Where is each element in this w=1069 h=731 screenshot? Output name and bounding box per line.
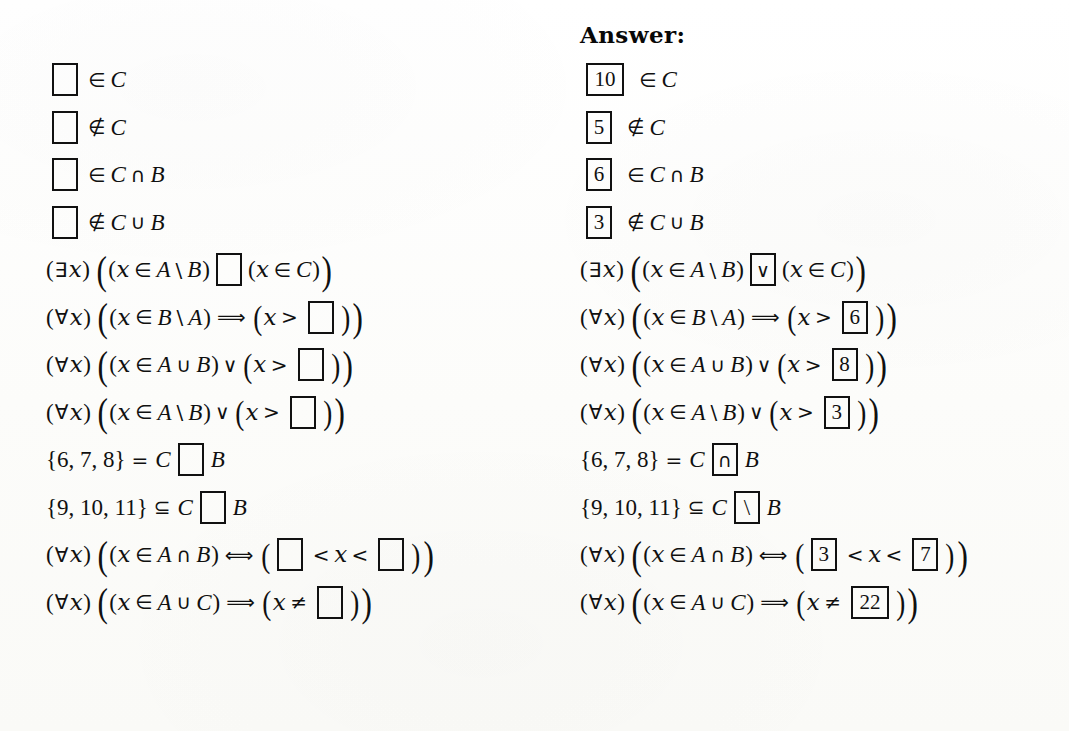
empty-answer-box[interactable] (317, 586, 343, 619)
filled-answer-box[interactable]: ∩ (712, 443, 738, 476)
var-x: x (117, 306, 131, 329)
answer-row-2: 5 ∉ C (580, 104, 1069, 152)
set-b-label: B (729, 353, 745, 376)
set-b-label: B (721, 401, 737, 424)
filled-answer-box[interactable]: 3 (824, 396, 850, 429)
equals-symbol: = (660, 450, 689, 470)
set-b-label: B (186, 258, 202, 281)
open-paren: ( (580, 543, 588, 566)
question-row-9: {6, 7, 8} = C B (46, 436, 546, 484)
close-paren: ) (203, 401, 211, 424)
var-x: x (69, 306, 83, 329)
greater-than-symbol: > (811, 307, 836, 327)
forall-symbol: ∀ (588, 355, 604, 375)
filled-answer-box[interactable]: 6 (842, 301, 868, 334)
empty-answer-box[interactable] (178, 443, 204, 476)
var-x: x (651, 543, 665, 566)
set-b-label: B (187, 401, 203, 424)
close-paren: ) (745, 543, 753, 566)
union-symbol: ∪ (127, 212, 150, 232)
question-row-2: ∉ C (46, 104, 546, 152)
set-b-label: B (149, 163, 165, 186)
setminus-symbol: \ (706, 402, 721, 422)
filled-answer-box[interactable]: 3 (586, 206, 612, 239)
subset-eq-symbol: ⊆ (148, 497, 177, 517)
close-paren: ) (846, 258, 854, 281)
filled-answer-box[interactable]: 5 (586, 111, 612, 144)
var-x: x (790, 258, 804, 281)
open-paren: ( (580, 306, 588, 329)
filled-answer-box[interactable]: 8 (832, 348, 858, 381)
element-of-symbol: ∈ (131, 355, 156, 375)
open-paren: ( (46, 306, 54, 329)
open-paren: ( (580, 353, 588, 376)
union-symbol: ∪ (666, 212, 689, 232)
filled-answer-box[interactable]: ∨ (750, 253, 776, 286)
empty-answer-box[interactable] (200, 491, 226, 524)
set-literal-row10: {9, 10, 11} (580, 496, 682, 519)
open-paren: ( (642, 258, 650, 281)
open-paren: ( (46, 401, 54, 424)
element-of-symbol: ∈ (131, 592, 156, 612)
close-paren: ) (745, 353, 753, 376)
empty-answer-box[interactable] (216, 253, 242, 286)
var-x: x (603, 591, 617, 614)
var-x: x (602, 258, 616, 281)
intersection-symbol: ∩ (666, 165, 689, 185)
union-symbol: ∪ (706, 355, 729, 375)
empty-answer-box[interactable] (308, 301, 334, 334)
set-c-label: C (109, 211, 126, 234)
not-element-of-symbol: ∉ (84, 212, 109, 232)
empty-answer-box[interactable] (52, 63, 78, 96)
open-paren: ( (46, 591, 54, 614)
set-c-label: C (195, 591, 212, 614)
close-paren: ) (617, 401, 625, 424)
setminus-symbol: \ (171, 260, 186, 280)
filled-answer-box[interactable]: \ (734, 491, 760, 524)
empty-answer-box[interactable] (277, 538, 303, 571)
var-x: x (69, 353, 83, 376)
var-x: x (603, 353, 617, 376)
answer-rows: 10 ∈ C 5 ∉ C 6 ∈ C ∩ B (580, 56, 1069, 626)
set-c-label: C (295, 258, 312, 281)
var-x: x (263, 306, 277, 329)
open-paren: ( (643, 591, 651, 614)
filled-answer-box[interactable]: 10 (586, 63, 624, 96)
var-x: x (69, 401, 83, 424)
element-of-symbol: ∈ (804, 260, 829, 280)
empty-answer-box[interactable] (52, 158, 78, 191)
empty-answer-box[interactable] (52, 206, 78, 239)
var-x: x (797, 306, 811, 329)
question-row-11: ( ∀ x ) ( ( x ∈ A ∩ B ) ⟺ ( < x < ) (46, 531, 546, 579)
var-x: x (272, 591, 286, 614)
empty-answer-box[interactable] (290, 396, 316, 429)
logical-or-symbol: ∨ (753, 355, 776, 375)
var-x: x (253, 353, 267, 376)
var-x: x (603, 401, 617, 424)
question-row-10: {9, 10, 11} ⊆ C B (46, 484, 546, 532)
intersection-symbol: ∩ (172, 545, 195, 565)
empty-answer-box[interactable] (298, 348, 324, 381)
set-literal-row9: {6, 7, 8} (580, 448, 660, 471)
filled-answer-box[interactable]: 6 (586, 158, 612, 191)
empty-answer-box[interactable] (52, 111, 78, 144)
question-row-3: ∈ C ∩ B (46, 151, 546, 199)
set-c-label: C (109, 163, 126, 186)
element-of-symbol: ∈ (131, 402, 156, 422)
answer-row-3: 6 ∈ C ∩ B (580, 151, 1069, 199)
worksheet-sheet: ∈ C ∉ C ∈ C ∩ B ∉ C ∪ (0, 0, 1069, 731)
close-paren: ) (617, 306, 625, 329)
implies-symbol: ⟹ (211, 307, 252, 327)
filled-answer-box[interactable]: 22 (851, 586, 889, 619)
answer-row-11: ( ∀ x ) ( ( x ∈ A ∩ B ) ⟺ ( 3 < x < 7 ) (580, 531, 1069, 579)
filled-answer-box[interactable]: 3 (811, 538, 837, 571)
empty-answer-box[interactable] (378, 538, 404, 571)
set-b-label: B (688, 163, 704, 186)
forall-symbol: ∀ (588, 545, 604, 565)
close-paren: ) (83, 353, 91, 376)
var-x: x (117, 353, 131, 376)
forall-symbol: ∀ (54, 592, 70, 612)
set-c-label: C (177, 496, 194, 519)
close-paren: ) (211, 543, 219, 566)
filled-answer-box[interactable]: 7 (912, 538, 938, 571)
